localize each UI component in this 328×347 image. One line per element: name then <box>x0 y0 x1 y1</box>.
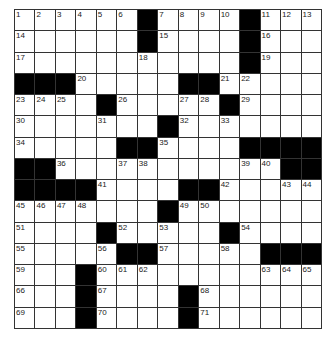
grid-cell[interactable]: 26 <box>117 95 136 115</box>
grid-cell[interactable] <box>117 286 136 306</box>
grid-cell[interactable] <box>158 265 177 285</box>
grid-cell[interactable] <box>138 286 157 306</box>
grid-cell[interactable]: 38 <box>138 159 157 179</box>
grid-cell[interactable]: 8 <box>179 10 198 30</box>
grid-cell[interactable]: 57 <box>158 244 177 264</box>
grid-cell[interactable]: 22 <box>240 74 259 94</box>
grid-cell[interactable] <box>281 116 300 136</box>
grid-cell[interactable]: 71 <box>199 308 218 328</box>
grid-cell[interactable]: 64 <box>281 265 300 285</box>
grid-cell[interactable]: 27 <box>179 95 198 115</box>
grid-cell[interactable]: 2 <box>35 10 54 30</box>
grid-cell[interactable]: 29 <box>240 95 259 115</box>
grid-cell[interactable] <box>199 53 218 73</box>
grid-cell[interactable] <box>76 244 95 264</box>
grid-cell[interactable] <box>138 95 157 115</box>
grid-cell[interactable] <box>261 74 280 94</box>
grid-cell[interactable]: 49 <box>179 201 198 221</box>
grid-cell[interactable]: 46 <box>35 201 54 221</box>
grid-cell[interactable]: 40 <box>261 159 280 179</box>
grid-cell[interactable] <box>35 53 54 73</box>
grid-cell[interactable]: 60 <box>97 265 116 285</box>
grid-cell[interactable]: 1 <box>15 10 34 30</box>
grid-cell[interactable]: 32 <box>179 116 198 136</box>
grid-cell[interactable] <box>56 53 75 73</box>
grid-cell[interactable] <box>138 308 157 328</box>
grid-cell[interactable]: 34 <box>15 138 34 158</box>
grid-cell[interactable] <box>261 95 280 115</box>
grid-cell[interactable] <box>302 74 321 94</box>
grid-cell[interactable] <box>35 244 54 264</box>
grid-cell[interactable] <box>76 53 95 73</box>
grid-cell[interactable]: 9 <box>199 10 218 30</box>
grid-cell[interactable] <box>179 159 198 179</box>
grid-cell[interactable] <box>97 31 116 51</box>
grid-cell[interactable] <box>97 53 116 73</box>
grid-cell[interactable] <box>199 31 218 51</box>
grid-cell[interactable] <box>220 201 239 221</box>
grid-cell[interactable] <box>117 74 136 94</box>
grid-cell[interactable]: 41 <box>97 180 116 200</box>
grid-cell[interactable]: 17 <box>15 53 34 73</box>
grid-cell[interactable]: 16 <box>261 31 280 51</box>
grid-cell[interactable]: 35 <box>158 138 177 158</box>
grid-cell[interactable] <box>56 244 75 264</box>
grid-cell[interactable]: 45 <box>15 201 34 221</box>
grid-cell[interactable]: 12 <box>281 10 300 30</box>
grid-cell[interactable] <box>35 223 54 243</box>
grid-cell[interactable] <box>158 159 177 179</box>
grid-cell[interactable]: 24 <box>35 95 54 115</box>
grid-cell[interactable] <box>35 31 54 51</box>
grid-cell[interactable] <box>56 223 75 243</box>
grid-cell[interactable] <box>35 308 54 328</box>
grid-cell[interactable] <box>117 201 136 221</box>
grid-cell[interactable] <box>158 95 177 115</box>
grid-cell[interactable] <box>281 74 300 94</box>
grid-cell[interactable]: 4 <box>76 10 95 30</box>
grid-cell[interactable] <box>179 31 198 51</box>
grid-cell[interactable]: 39 <box>240 159 259 179</box>
grid-cell[interactable] <box>76 31 95 51</box>
grid-cell[interactable] <box>56 286 75 306</box>
grid-cell[interactable] <box>199 116 218 136</box>
grid-cell[interactable]: 25 <box>56 95 75 115</box>
grid-cell[interactable]: 37 <box>117 159 136 179</box>
grid-cell[interactable]: 47 <box>56 201 75 221</box>
grid-cell[interactable] <box>261 286 280 306</box>
grid-cell[interactable] <box>199 138 218 158</box>
grid-cell[interactable]: 55 <box>15 244 34 264</box>
grid-cell[interactable] <box>199 223 218 243</box>
grid-cell[interactable] <box>281 53 300 73</box>
grid-cell[interactable] <box>158 74 177 94</box>
grid-cell[interactable] <box>240 116 259 136</box>
grid-cell[interactable] <box>56 265 75 285</box>
grid-cell[interactable]: 56 <box>97 244 116 264</box>
grid-cell[interactable] <box>179 223 198 243</box>
grid-cell[interactable] <box>261 180 280 200</box>
grid-cell[interactable] <box>138 116 157 136</box>
grid-cell[interactable]: 13 <box>302 10 321 30</box>
grid-cell[interactable] <box>240 180 259 200</box>
grid-cell[interactable] <box>302 116 321 136</box>
grid-cell[interactable] <box>97 74 116 94</box>
grid-cell[interactable] <box>76 116 95 136</box>
grid-cell[interactable] <box>281 223 300 243</box>
grid-cell[interactable] <box>199 244 218 264</box>
grid-cell[interactable] <box>138 180 157 200</box>
grid-cell[interactable] <box>240 265 259 285</box>
grid-cell[interactable] <box>281 31 300 51</box>
grid-cell[interactable] <box>220 265 239 285</box>
grid-cell[interactable]: 42 <box>220 180 239 200</box>
grid-cell[interactable] <box>56 31 75 51</box>
grid-cell[interactable] <box>302 286 321 306</box>
grid-cell[interactable] <box>261 223 280 243</box>
grid-cell[interactable]: 3 <box>56 10 75 30</box>
grid-cell[interactable] <box>97 201 116 221</box>
grid-cell[interactable]: 11 <box>261 10 280 30</box>
grid-cell[interactable] <box>138 74 157 94</box>
grid-cell[interactable]: 69 <box>15 308 34 328</box>
grid-cell[interactable] <box>179 53 198 73</box>
grid-cell[interactable] <box>281 308 300 328</box>
grid-cell[interactable] <box>261 308 280 328</box>
grid-cell[interactable] <box>199 159 218 179</box>
